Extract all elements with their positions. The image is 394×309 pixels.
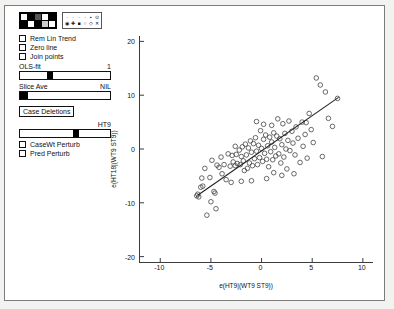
data-point[interactable] [264,176,269,181]
data-point[interactable] [274,134,279,139]
data-point[interactable] [258,128,263,133]
data-point[interactable] [267,135,272,140]
data-point[interactable] [285,167,290,172]
checkbox-pred-perturb[interactable]: Pred Perturb [19,150,111,157]
data-point[interactable] [261,122,266,127]
data-point[interactable] [287,119,292,124]
data-point[interactable] [247,161,252,166]
data-point[interactable] [309,127,314,132]
data-point[interactable] [286,138,291,143]
palette-row: ····▪⊙◉✚■○◇✕ [19,12,111,29]
symbol-swatch-11[interactable]: ✕ [94,20,100,26]
data-point[interactable] [228,164,233,169]
data-point[interactable] [268,149,273,154]
data-point[interactable] [280,173,285,178]
color-swatch-2[interactable] [35,14,41,20]
symbol-palette[interactable]: ····▪⊙◉✚■○◇✕ [62,12,102,29]
data-point[interactable] [222,162,227,167]
slider-slice-ave[interactable] [19,91,111,100]
data-point[interactable] [280,142,285,147]
data-point[interactable] [210,158,215,163]
color-swatch-7[interactable] [35,21,41,27]
color-swatch-6[interactable] [28,21,34,27]
data-point[interactable] [244,153,249,158]
data-point[interactable] [220,171,225,176]
data-point[interactable] [233,144,238,149]
data-point[interactable] [296,136,301,141]
data-point[interactable] [254,119,259,124]
slider-thumb[interactable] [73,130,79,137]
data-point[interactable] [229,180,234,185]
data-point[interactable] [251,141,256,146]
data-point[interactable] [330,124,335,129]
data-point[interactable] [199,176,204,181]
data-point[interactable] [311,140,316,145]
data-point[interactable] [255,162,260,167]
checkbox-rem-lin-trend[interactable]: Rem Lin Trend [19,35,111,42]
checkbox-zero-line[interactable]: Zero line [19,44,111,51]
data-point[interactable] [208,175,213,180]
color-swatch-8[interactable] [42,21,48,27]
color-swatch-4[interactable] [49,14,55,20]
data-point[interactable] [246,146,251,151]
checkbox-join-points[interactable]: Join points [19,53,111,60]
data-point[interactable] [298,160,303,165]
data-point[interactable] [249,150,254,155]
checkbox-box[interactable] [19,53,26,60]
data-point[interactable] [318,83,323,88]
data-point[interactable] [279,161,284,166]
data-point[interactable] [249,178,254,183]
data-point[interactable] [303,132,308,137]
checkbox-box[interactable] [19,35,26,42]
data-point[interactable] [307,111,312,116]
slider-name: OLS-fit [19,63,41,70]
data-point[interactable] [262,151,267,156]
data-point[interactable] [320,154,325,159]
data-point[interactable] [293,153,298,158]
data-point[interactable] [205,213,210,218]
color-swatch-1[interactable] [28,14,34,20]
data-point[interactable] [291,141,296,146]
checkbox-box[interactable] [19,150,26,157]
slider-thumb[interactable] [20,92,28,99]
slider-thumb[interactable] [47,72,53,79]
data-point[interactable] [281,121,286,126]
data-point[interactable] [305,156,310,161]
data-point[interactable] [219,155,224,160]
data-point[interactable] [214,206,219,211]
data-point[interactable] [248,139,253,144]
data-point[interactable] [271,170,276,175]
data-point[interactable] [269,123,274,128]
data-point[interactable] [282,155,287,160]
data-point[interactable] [203,166,208,171]
data-point[interactable] [314,76,319,81]
case-deletions-button[interactable]: Case Deletions [19,106,74,117]
data-point[interactable] [326,116,331,121]
data-point[interactable] [250,163,255,168]
color-palette[interactable] [19,12,57,29]
checkbox-box[interactable] [19,44,26,51]
data-point[interactable] [272,145,277,150]
slider-ht9[interactable] [19,129,111,138]
data-point[interactable] [224,177,229,182]
data-point[interactable] [240,145,245,150]
data-point[interactable] [301,144,306,149]
data-point[interactable] [239,179,244,184]
color-swatch-3[interactable] [42,14,48,20]
color-swatch-9[interactable] [49,21,55,27]
data-point[interactable] [253,135,258,140]
data-point[interactable] [323,90,328,95]
data-point[interactable] [239,154,244,159]
data-point[interactable] [261,137,266,142]
data-point[interactable] [275,117,280,122]
data-point[interactable] [266,164,271,169]
data-point[interactable] [292,171,297,176]
color-swatch-5[interactable] [21,21,27,27]
data-point[interactable] [288,148,293,153]
color-swatch-0[interactable] [21,14,27,20]
data-point[interactable] [264,157,269,162]
slider-ols-fit[interactable] [19,71,111,80]
checkbox-box[interactable] [19,141,26,148]
checkbox-casewt-perturb[interactable]: CaseWt Perturb [19,141,111,148]
data-point[interactable] [209,199,214,204]
